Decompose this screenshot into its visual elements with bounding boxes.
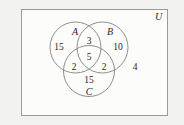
region-count-b-only: 10 [113,43,123,53]
venn-circles-group [0,0,184,125]
region-count-a-and-b-and-c: 5 [87,53,92,63]
set-label-c: C [86,87,93,97]
region-count-a-only: 15 [54,43,64,53]
region-count-a-and-c-only: 2 [72,63,77,73]
set-label-b: B [107,27,113,37]
region-count-outside-all: 4 [133,63,138,73]
set-label-a: A [72,27,78,37]
region-count-a-and-b-only: 3 [87,37,92,47]
region-count-b-and-c-only: 2 [102,63,107,73]
region-count-c-only: 15 [84,76,94,86]
venn-diagram-figure: U A B C 15 10 3 5 2 2 15 4 [0,0,184,125]
